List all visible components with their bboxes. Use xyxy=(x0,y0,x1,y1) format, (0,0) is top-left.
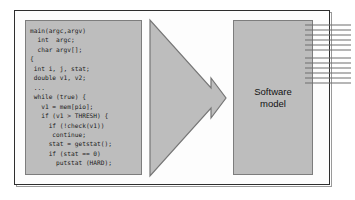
output-signal-bus xyxy=(305,22,355,84)
source-code-text: main(argc,argv) int argc; char argv[]; {… xyxy=(26,21,141,175)
figure-canvas: main(argc,argv) int argc; char argv[]; {… xyxy=(0,0,355,200)
arrow-icon xyxy=(148,18,228,178)
signal-bus-icon xyxy=(305,22,355,84)
transformation-arrow xyxy=(148,18,228,178)
software-model-label: Software model xyxy=(254,86,292,109)
source-code-panel: main(argc,argv) int argc; char argv[]; {… xyxy=(25,20,142,175)
software-model-block: Software model xyxy=(233,20,313,175)
